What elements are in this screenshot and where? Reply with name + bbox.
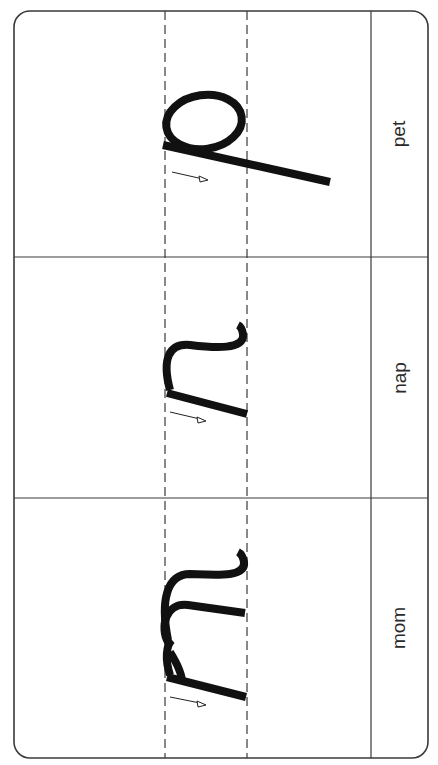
letter-m-glyph [164, 552, 246, 697]
word-cell-row-3: mom [371, 498, 428, 758]
outer-border [14, 11, 428, 758]
direction-arrow-icon [170, 412, 206, 423]
letter-n-glyph [167, 325, 247, 414]
letter-p-glyph [163, 90, 330, 182]
word-cell-row-2: nap [371, 257, 428, 498]
direction-arrow-icon [170, 697, 206, 707]
direction-arrow-icon [172, 172, 208, 182]
word-label: pet [388, 121, 410, 147]
word-cell-row-1: pet [371, 11, 428, 257]
word-label: nap [388, 362, 410, 394]
word-label: mom [388, 607, 410, 649]
handwriting-worksheet: pet nap mom [0, 0, 438, 765]
